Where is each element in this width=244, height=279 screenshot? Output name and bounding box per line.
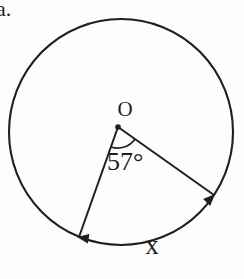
central-angle-label: 57° — [107, 147, 143, 176]
center-point — [115, 124, 121, 130]
problem-label: a. — [0, 0, 11, 21]
arc-arrowhead-right — [203, 194, 215, 206]
center-point-label: O — [117, 97, 132, 121]
arc-variable-label: x — [145, 230, 159, 260]
circle-outline — [9, 19, 233, 245]
radius-left — [79, 127, 118, 237]
geometry-problem-figure: a. O 57° x — [0, 0, 244, 279]
circle-diagram: a. O 57° x — [0, 0, 244, 279]
